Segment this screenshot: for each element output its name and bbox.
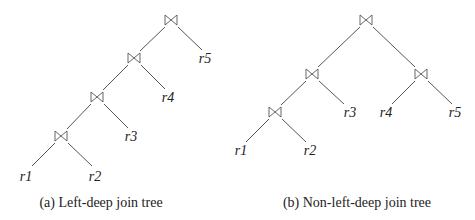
edge bbox=[373, 27, 415, 67]
edge bbox=[104, 104, 128, 128]
join-icon bbox=[91, 92, 103, 102]
join-icon bbox=[165, 15, 177, 25]
join-icon bbox=[128, 53, 140, 63]
edge bbox=[319, 81, 344, 104]
edge bbox=[281, 81, 306, 105]
edge bbox=[67, 104, 91, 129]
caption-left-deep: (a) Left-deep join tree bbox=[39, 195, 162, 211]
relation-label-r4: r4 bbox=[162, 90, 174, 105]
relation-label-r3: r3 bbox=[125, 129, 137, 144]
relation-label-r3: r3 bbox=[344, 105, 356, 120]
relation-label-r1: r1 bbox=[235, 143, 247, 158]
edge bbox=[140, 27, 165, 51]
join-icon bbox=[306, 69, 318, 79]
non-left-deep-tree: r3 r4 r5 r1 r2 (b) Non-left-deep join tr… bbox=[235, 15, 461, 211]
edge bbox=[178, 27, 202, 50]
caption-non-left-deep: (b) Non-left-deep join tree bbox=[283, 195, 431, 211]
edge bbox=[32, 143, 55, 166]
join-icon bbox=[55, 131, 67, 141]
relation-label-r2: r2 bbox=[304, 143, 316, 158]
edge bbox=[68, 143, 92, 166]
relation-label-r2: r2 bbox=[89, 169, 101, 184]
relation-label-r4: r4 bbox=[380, 105, 392, 120]
join-icon bbox=[415, 69, 427, 79]
edge bbox=[282, 119, 306, 142]
join-tree-diagram: r5 r4 r3 r1 r2 (a) Left-deep join tree r… bbox=[0, 0, 475, 220]
left-deep-tree: r5 r4 r3 r1 r2 (a) Left-deep join tree bbox=[20, 15, 211, 211]
relation-label-r5: r5 bbox=[199, 51, 211, 66]
join-icon bbox=[269, 107, 281, 117]
join-icon bbox=[360, 15, 372, 25]
edge bbox=[428, 81, 452, 104]
edge bbox=[392, 81, 415, 104]
relation-label-r5: r5 bbox=[449, 105, 461, 120]
edge bbox=[246, 119, 269, 142]
edge bbox=[103, 65, 128, 90]
edge bbox=[141, 65, 165, 89]
edge bbox=[318, 27, 360, 67]
relation-label-r1: r1 bbox=[20, 169, 32, 184]
